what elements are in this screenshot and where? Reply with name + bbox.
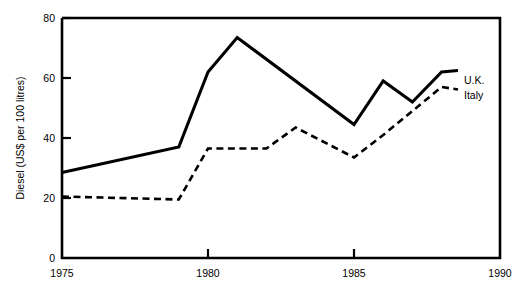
y-tick-label-0: 0 <box>49 252 55 264</box>
y-axis-title: Diesel (US$ per 100 litres) <box>14 76 26 199</box>
x-tick-label-1990: 1990 <box>488 267 512 279</box>
x-tick-label-1980: 1980 <box>196 267 220 279</box>
series-line-italy <box>62 87 458 200</box>
plot-frame <box>62 18 500 258</box>
series-label-italy: Italy <box>464 89 484 101</box>
x-tick-label-1985: 1985 <box>342 267 366 279</box>
line-chart: 80 60 40 20 0 1975 1980 1985 1990 Diesel… <box>0 0 526 293</box>
y-tick-label-20: 20 <box>43 192 55 204</box>
chart-figure: 80 60 40 20 0 1975 1980 1985 1990 Diesel… <box>0 0 526 293</box>
x-tick-label-1975: 1975 <box>50 267 74 279</box>
y-tick-label-40: 40 <box>43 132 55 144</box>
y-tick-label-80: 80 <box>43 12 55 24</box>
series-label-uk: U.K. <box>464 74 484 86</box>
y-tick-label-60: 60 <box>43 72 55 84</box>
series-line-uk <box>62 38 458 173</box>
x-axis-ticks <box>208 249 354 258</box>
